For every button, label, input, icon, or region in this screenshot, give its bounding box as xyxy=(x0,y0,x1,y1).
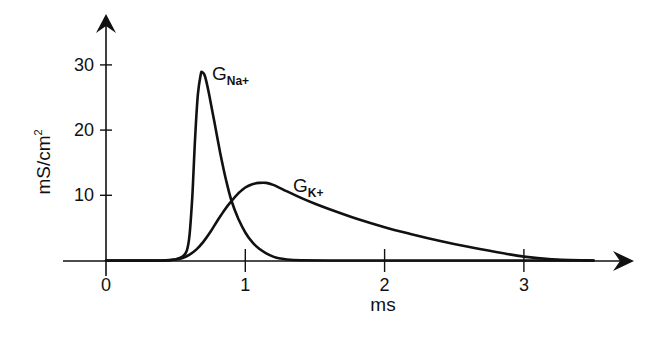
y-tick-label: 30 xyxy=(74,55,94,75)
series-label-na-sub: Na+ xyxy=(227,74,249,88)
y-axis-label: mS/cm2 xyxy=(32,129,54,194)
series-label-na: GNa+ xyxy=(212,63,249,88)
series-label-k-main: G xyxy=(293,175,308,196)
y-tick-label: 10 xyxy=(74,185,94,205)
y-tick-labels: 102030 xyxy=(74,55,94,205)
x-tick-label: 0 xyxy=(101,275,111,295)
x-tick-label: 1 xyxy=(240,275,250,295)
series-g-k-line xyxy=(106,183,594,261)
axes xyxy=(63,20,628,276)
x-axis-label: ms xyxy=(370,294,395,315)
x-tick-labels: 0123 xyxy=(101,275,529,295)
x-tick-label: 2 xyxy=(380,275,390,295)
series-label-k-sub: K+ xyxy=(308,186,324,200)
series-g-na-line xyxy=(106,72,594,261)
conductance-chart: 0123 102030 GNa+ GK+ ms mS/cm2 xyxy=(0,0,649,337)
series-label-na-main: G xyxy=(212,63,227,84)
y-axis-label-sup: 2 xyxy=(32,129,44,135)
x-tick-label: 3 xyxy=(519,275,529,295)
y-axis-label-text: mS/cm xyxy=(33,136,54,195)
y-tick-label: 20 xyxy=(74,120,94,140)
